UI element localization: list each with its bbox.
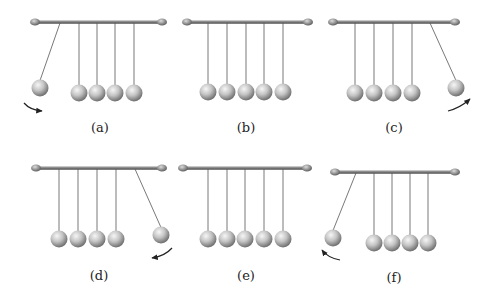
- bar-end-cap-right: [157, 18, 167, 25]
- pendulum-ball: [448, 80, 465, 97]
- pendulum-ball: [89, 85, 106, 102]
- support-bar: [187, 20, 308, 24]
- panel-e: (e): [178, 164, 312, 283]
- motion-arrow-icon: [322, 250, 340, 260]
- bar-end-cap-left: [182, 18, 192, 25]
- panel-label: (f): [387, 270, 402, 285]
- panel-label: (a): [91, 120, 109, 135]
- panel-label: (b): [237, 120, 255, 135]
- pendulum-ball: [325, 230, 342, 247]
- panel-c: (c): [328, 18, 470, 135]
- pendulum-ball: [402, 235, 419, 252]
- pendulum-ball: [385, 85, 402, 102]
- pendulum-ball: [256, 231, 273, 248]
- pendulum-ball: [420, 235, 437, 252]
- support-bar: [36, 166, 162, 170]
- pendulum-ball: [366, 85, 383, 102]
- motion-arrow-icon: [152, 248, 172, 258]
- pendulum-ball: [126, 85, 143, 102]
- panel-label: (e): [237, 268, 255, 283]
- motion-arrow-icon: [24, 103, 42, 111]
- pendulum-string: [333, 173, 356, 231]
- bar-end-cap-left: [30, 18, 40, 25]
- bar-end-cap-right: [450, 18, 460, 25]
- bar-end-cap-right: [157, 164, 167, 171]
- bar-end-cap-left: [178, 164, 188, 171]
- newtons-cradle-figure: (a)(b)(c)(d)(e)(f): [0, 0, 492, 299]
- pendulum-ball: [219, 231, 236, 248]
- bar-end-cap-right: [303, 18, 313, 25]
- pendulum-ball: [275, 231, 292, 248]
- panel-label: (d): [90, 268, 108, 283]
- pendulum-ball: [107, 85, 124, 102]
- pendulum-ball: [200, 231, 217, 248]
- pendulum-string: [135, 169, 161, 228]
- pendulum-ball: [347, 85, 364, 102]
- bar-end-cap-left: [328, 18, 338, 25]
- pendulum-string: [430, 23, 456, 81]
- pendulum-ball: [200, 84, 217, 101]
- pendulum-ball: [51, 231, 68, 248]
- pendulum-ball: [89, 231, 106, 248]
- pendulum-ball: [32, 80, 49, 97]
- pendulum-ball: [108, 231, 125, 248]
- pendulum-string: [40, 23, 60, 81]
- pendulum-ball: [404, 85, 421, 102]
- panel-label: (c): [385, 120, 402, 135]
- pendulum-ball: [237, 231, 254, 248]
- support-bar: [335, 170, 455, 174]
- bar-end-cap-right: [302, 164, 312, 171]
- panel-a: (a): [24, 18, 167, 135]
- pendulum-ball: [256, 84, 273, 101]
- pendulum-ball: [238, 84, 255, 101]
- pendulum-ball: [70, 231, 87, 248]
- support-bar: [333, 20, 455, 24]
- panel-d: (d): [31, 164, 172, 283]
- support-bar: [35, 20, 162, 24]
- pendulum-ball: [219, 84, 236, 101]
- bar-end-cap-right: [450, 168, 460, 175]
- motion-arrow-icon: [448, 99, 470, 111]
- pendulum-ball: [71, 85, 88, 102]
- pendulum-ball: [153, 227, 170, 244]
- bar-end-cap-left: [31, 164, 41, 171]
- bar-end-cap-left: [330, 168, 340, 175]
- pendulum-ball: [366, 235, 383, 252]
- panel-f: (f): [322, 168, 460, 285]
- pendulum-ball: [275, 84, 292, 101]
- support-bar: [183, 166, 307, 170]
- panel-b: (b): [182, 18, 313, 135]
- pendulum-ball: [384, 235, 401, 252]
